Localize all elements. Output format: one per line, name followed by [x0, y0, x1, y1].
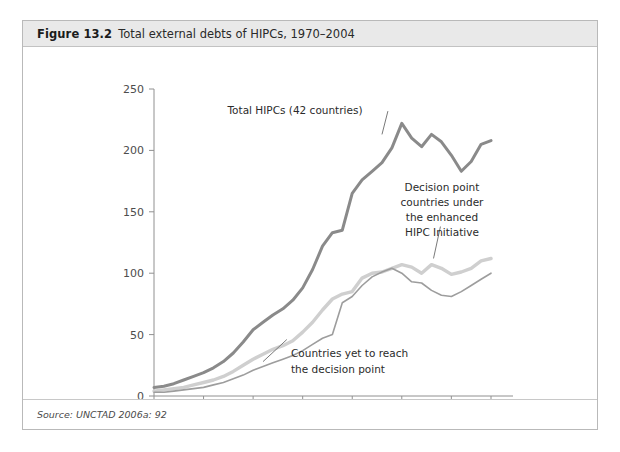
- annotation-decision-line4: HIPC Initiative: [383, 225, 501, 240]
- annotation-total-hipcs: Total HIPCs (42 countries): [205, 99, 385, 118]
- annotation-decision-line1: Decision point: [383, 180, 501, 195]
- annotation-decision-line3: the enhanced: [383, 210, 501, 225]
- source-note: Source: UNCTAD 2006a: 92: [37, 409, 167, 420]
- y-tick-label: 200: [123, 144, 144, 157]
- chart-plot-area: 0501001502002501970197519801985199019952…: [23, 47, 599, 399]
- y-tick-label: 150: [123, 206, 144, 219]
- annotation-yet-to-reach: Countries yet to reach the decision poin…: [291, 345, 461, 377]
- y-tick-label: 100: [123, 267, 144, 280]
- annotation-total-hipcs-label: Total HIPCs (42 countries): [227, 104, 362, 116]
- annotation-yet-line1: Countries yet to reach: [291, 345, 461, 361]
- figure-container: Figure 13.2 Total external debts of HIPC…: [22, 20, 598, 430]
- source-note-bar: Source: UNCTAD 2006a: 92: [23, 399, 597, 429]
- y-tick-label: 50: [130, 329, 144, 342]
- annotation-yet-line2: the decision point: [291, 361, 461, 377]
- figure-number: Figure 13.2: [37, 27, 112, 41]
- annotation-decision-point: Decision point countries under the enhan…: [383, 180, 501, 240]
- y-tick-label: 250: [123, 83, 144, 96]
- y-tick-label: 0: [137, 390, 144, 399]
- annotation-decision-line2: countries under: [383, 195, 501, 210]
- figure-header: Figure 13.2 Total external debts of HIPC…: [23, 21, 597, 47]
- figure-title: Total external debts of HIPCs, 1970–2004: [118, 27, 355, 41]
